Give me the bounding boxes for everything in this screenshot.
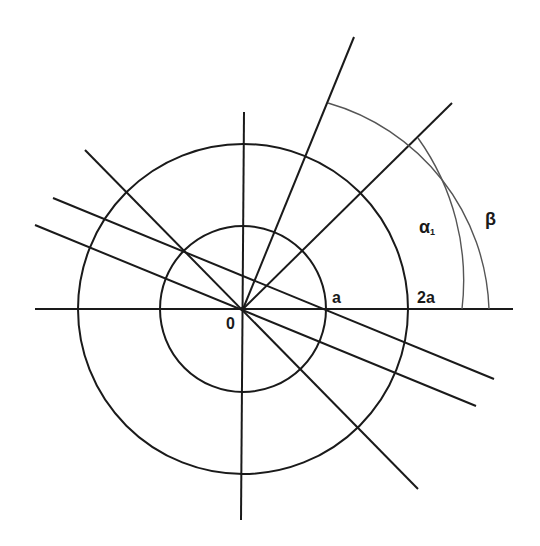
alpha-subscript: 1 bbox=[430, 227, 435, 237]
offset-line-lower bbox=[35, 225, 476, 406]
alpha-label: α1 bbox=[419, 218, 435, 237]
beta-arc bbox=[328, 103, 489, 309]
origin-label: 0 bbox=[226, 316, 235, 332]
two-a-label: 2a bbox=[417, 290, 435, 306]
diagram-svg bbox=[0, 0, 540, 546]
beta-label: β bbox=[485, 210, 496, 228]
origin-point bbox=[241, 307, 246, 312]
diagonal-ray-45 bbox=[243, 103, 452, 309]
alpha-symbol: α bbox=[419, 217, 430, 237]
vertical-axis bbox=[241, 112, 244, 520]
diagram-canvas: 0 a 2a α1 β bbox=[0, 0, 540, 546]
a-label: a bbox=[332, 290, 341, 306]
